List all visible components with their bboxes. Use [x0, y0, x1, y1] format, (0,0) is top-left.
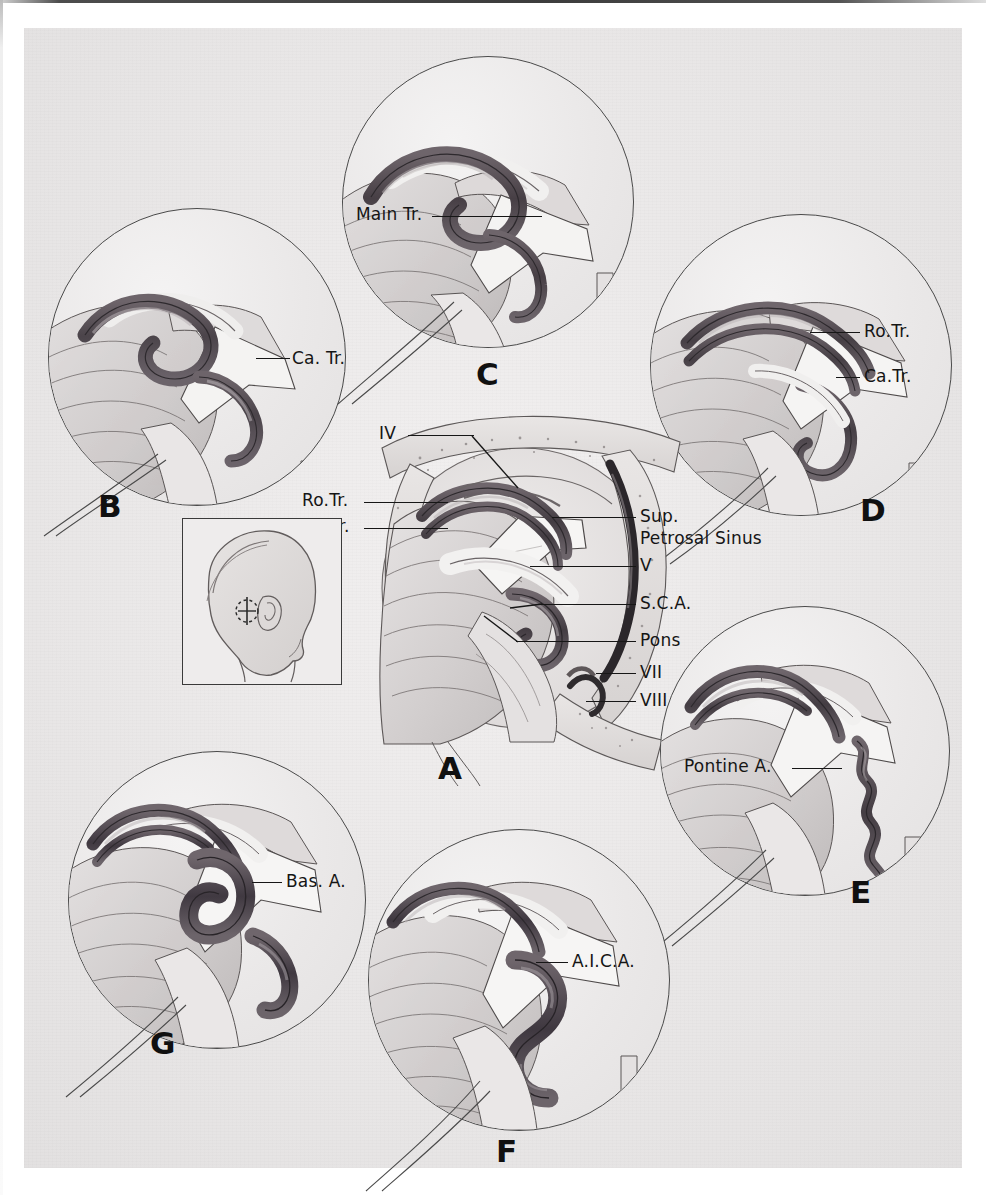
- panel-g-leader-bas-a: [252, 882, 282, 883]
- panel-g-label-bas-a: Bas. A.: [286, 871, 346, 891]
- panel-a-leader-viii: [586, 701, 636, 702]
- scan-edge-top: [0, 0, 986, 3]
- panel-c-label-main-tr: Main Tr.: [356, 204, 422, 224]
- panel-a-leader-vii: [596, 673, 636, 674]
- panel-a-leader-iv: [408, 435, 474, 436]
- panel-e-leader-pontine-a: [792, 768, 842, 769]
- panel-f-letter: F: [496, 1133, 517, 1169]
- panel-d-label-ca-tr: Ca.Tr.: [864, 366, 912, 386]
- panel-a-label-ro-tr: Ro.Tr.: [302, 490, 348, 510]
- panel-a-letter: A: [438, 750, 462, 786]
- panel-c: Main Tr. C: [324, 46, 624, 396]
- panel-a-leader-pons-elbow: [484, 616, 524, 646]
- panel-a-leader-ro-tr: [364, 502, 448, 503]
- panel-e: Pontine A. E: [644, 598, 964, 928]
- panel-a-leader-ca-tr: [364, 528, 448, 529]
- panel-a-leader-sca: [540, 604, 636, 605]
- panel-b: Ca. Tr. B: [34, 198, 344, 528]
- panel-a-leader-sup-petrosal-sinus: [552, 517, 636, 518]
- panel-d-label-ro-tr: Ro.Tr.: [864, 321, 910, 341]
- panel-g-tail: [54, 989, 244, 1099]
- panel-e-label-pontine-a: Pontine A.: [684, 756, 772, 776]
- panel-b-letter: B: [98, 488, 122, 524]
- orientation-head-inset: [182, 518, 342, 685]
- panel-b-leader-ca-tr: [256, 358, 290, 359]
- panel-a-label-sup-petrosal-sinus-line1: Sup.: [640, 506, 679, 526]
- illustration-paper: Ca. Tr. B: [24, 28, 962, 1168]
- panel-g-letter: G: [150, 1025, 175, 1061]
- panel-a-leader-sca-elbow: [510, 574, 550, 610]
- panel-f: A.I.C.A. F: [354, 823, 684, 1173]
- figure-plate: Ca. Tr. B: [0, 0, 986, 1195]
- panel-a-label-sup-petrosal-sinus-line2: Petrosal Sinus: [640, 528, 762, 548]
- panel-e-letter: E: [850, 874, 871, 910]
- panel-c-leader-main-tr: [432, 216, 542, 217]
- panel-f-leader-aica: [536, 962, 568, 963]
- panel-a-leader-v: [530, 566, 636, 567]
- panel-d-letter: D: [860, 492, 886, 528]
- panel-a-leader-iv-elbow: [472, 434, 532, 490]
- panel-a-label-iv: IV: [379, 423, 396, 443]
- panel-c-letter: C: [476, 356, 499, 392]
- panel-d-leader-ca-tr: [836, 377, 860, 378]
- scan-edge-left: [0, 0, 3, 1195]
- panel-f-tail: [354, 1073, 554, 1193]
- head-diagram: [183, 519, 339, 682]
- panel-a-label-v: V: [640, 555, 652, 575]
- panel-a-leader-pons: [516, 641, 636, 642]
- panel-g: Bas. A. G: [54, 743, 384, 1083]
- panel-d-leader-ro-tr: [810, 332, 860, 333]
- panel-f-label-aica: A.I.C.A.: [572, 951, 635, 971]
